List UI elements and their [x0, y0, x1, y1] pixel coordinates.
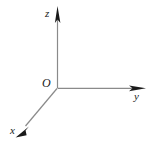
x-axis-line: [26, 89, 58, 127]
z-axis-label: z: [45, 8, 49, 19]
axes-drawing: [0, 0, 149, 149]
x-axis-label: x: [10, 125, 15, 136]
x-axis-arrowhead: [16, 126, 29, 137]
coordinate-axes-figure: z y x O: [0, 0, 149, 149]
y-axis-label: y: [134, 91, 139, 102]
origin-label: O: [42, 77, 51, 89]
